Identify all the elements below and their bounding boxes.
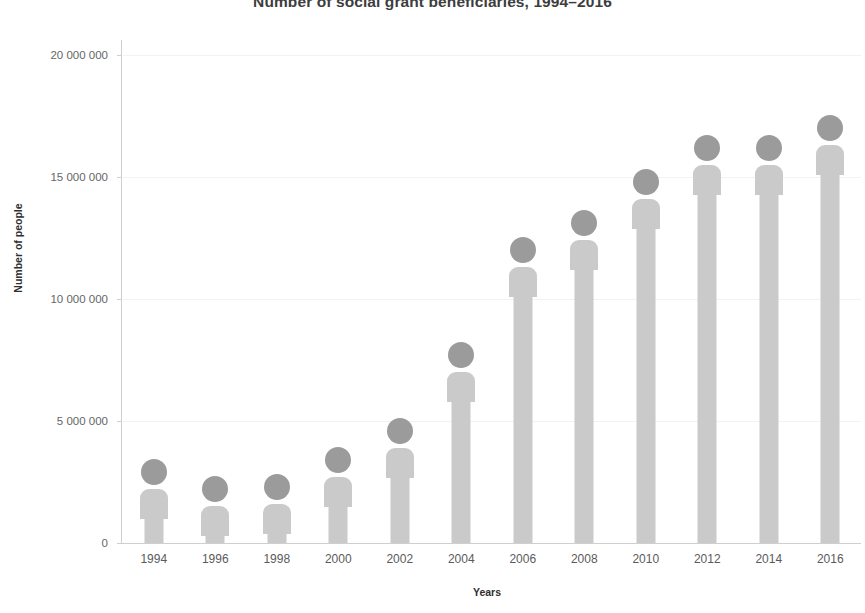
- person-body: [636, 229, 655, 543]
- bar-person-2002: [380, 418, 420, 543]
- bar-person-1998: [257, 474, 297, 543]
- y-tick-label: 10 000 000: [0, 293, 108, 305]
- bar-person-1996: [195, 476, 235, 543]
- person-shoulders: [324, 477, 352, 507]
- bar-person-1994: [134, 459, 174, 543]
- person-shoulders: [570, 240, 598, 270]
- person-body: [144, 519, 163, 543]
- person-shoulders: [755, 165, 783, 195]
- y-tick-mark: [117, 543, 122, 544]
- person-body: [575, 270, 594, 543]
- x-tick-label-2008: 2008: [571, 552, 598, 566]
- bar-person-2004: [441, 342, 481, 543]
- person-body: [513, 297, 532, 543]
- person-head-icon: [817, 115, 843, 141]
- person-shoulders: [693, 165, 721, 195]
- y-tick-label: 15 000 000: [0, 171, 108, 183]
- x-tick-label-1996: 1996: [202, 552, 229, 566]
- person-head-icon: [694, 135, 720, 161]
- person-head-icon: [633, 169, 659, 195]
- person-head-icon: [510, 237, 536, 263]
- person-head-icon: [202, 476, 228, 502]
- chart-container: Number of social grant beneficiaries, 19…: [0, 0, 865, 613]
- x-tick-label-2012: 2012: [694, 552, 721, 566]
- bar-person-2012: [687, 135, 727, 543]
- chart-title: Number of social grant beneficiaries, 19…: [0, 0, 865, 11]
- x-axis-line: [121, 543, 861, 544]
- person-body: [821, 175, 840, 543]
- person-head-icon: [571, 210, 597, 236]
- bar-person-2010: [626, 169, 666, 543]
- y-tick-label: 5 000 000: [0, 415, 108, 427]
- person-shoulders: [447, 372, 475, 402]
- x-tick-label-2000: 2000: [325, 552, 352, 566]
- person-head-icon: [264, 474, 290, 500]
- x-tick-label-2004: 2004: [448, 552, 475, 566]
- x-tick-label-1998: 1998: [263, 552, 290, 566]
- y-tick-label: 0: [0, 537, 108, 549]
- y-tick-label: 20 000 000: [0, 49, 108, 61]
- person-head-icon: [387, 418, 413, 444]
- person-body: [698, 195, 717, 543]
- x-tick-label-2006: 2006: [509, 552, 536, 566]
- person-shoulders: [509, 267, 537, 297]
- person-body: [452, 402, 471, 543]
- person-body: [390, 478, 409, 543]
- person-shoulders: [140, 489, 168, 519]
- person-shoulders: [386, 448, 414, 478]
- bar-person-2014: [749, 135, 789, 543]
- x-tick-label-2002: 2002: [386, 552, 413, 566]
- x-tick-label-2016: 2016: [817, 552, 844, 566]
- bar-person-2008: [564, 210, 604, 543]
- person-head-icon: [141, 459, 167, 485]
- bar-person-2006: [503, 237, 543, 543]
- person-head-icon: [325, 447, 351, 473]
- person-body: [206, 536, 225, 543]
- x-axis-title: Years: [122, 586, 852, 598]
- x-tick-label-1994: 1994: [140, 552, 167, 566]
- bar-person-2016: [810, 115, 850, 543]
- person-shoulders: [816, 145, 844, 175]
- person-head-icon: [756, 135, 782, 161]
- person-head-icon: [448, 342, 474, 368]
- person-body: [267, 534, 286, 543]
- x-tick-label-2010: 2010: [632, 552, 659, 566]
- person-shoulders: [632, 199, 660, 229]
- person-body: [759, 195, 778, 543]
- x-tick-label-2014: 2014: [755, 552, 782, 566]
- bar-person-2000: [318, 447, 358, 543]
- person-shoulders: [201, 506, 229, 536]
- person-body: [329, 507, 348, 543]
- person-shoulders: [263, 504, 291, 534]
